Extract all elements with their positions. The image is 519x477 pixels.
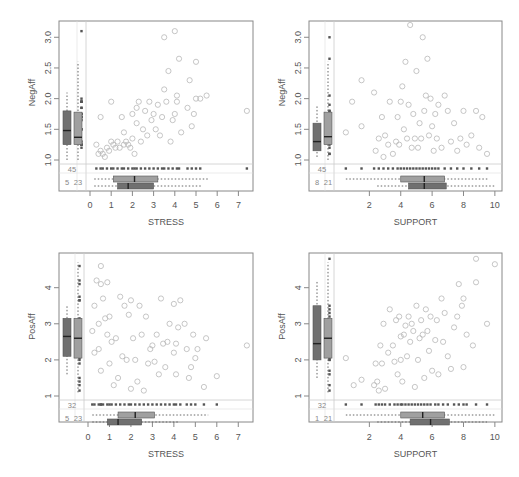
- svg-text:1.0: 1.0: [293, 154, 303, 167]
- svg-text:2: 2: [43, 357, 53, 362]
- svg-text:23: 23: [74, 414, 82, 423]
- svg-text:21: 21: [324, 178, 332, 187]
- svg-text:1: 1: [293, 393, 303, 398]
- svg-text:6: 6: [214, 432, 219, 442]
- svg-text:8: 8: [315, 178, 319, 187]
- marginal-boxplot-x: [92, 412, 208, 418]
- missing-counts: 32121: [315, 401, 332, 424]
- svg-text:4: 4: [398, 200, 403, 210]
- svg-text:2.5: 2.5: [43, 62, 53, 75]
- marginal-boxplot-y: [313, 105, 321, 157]
- svg-text:1.5: 1.5: [43, 123, 53, 136]
- y-axis: 1234: [293, 285, 309, 398]
- y-axis-label: PosAff: [277, 313, 287, 340]
- missing-y-rug: [328, 258, 488, 406]
- svg-text:3.0: 3.0: [293, 31, 303, 44]
- svg-text:8: 8: [461, 200, 466, 210]
- svg-text:1: 1: [315, 414, 319, 423]
- missing-counts: 45821: [315, 165, 332, 188]
- scatter-points: [90, 263, 250, 393]
- missing-counts: 32523: [65, 401, 82, 424]
- svg-text:2: 2: [128, 432, 133, 442]
- svg-text:1.0: 1.0: [43, 154, 53, 167]
- svg-text:6: 6: [215, 200, 220, 210]
- svg-text:3.0: 3.0: [43, 31, 53, 44]
- svg-text:6: 6: [430, 432, 435, 442]
- svg-text:2.5: 2.5: [293, 62, 303, 75]
- scatter-points: [94, 29, 250, 160]
- svg-text:5: 5: [193, 432, 198, 442]
- x-axis-label: SUPPORT: [394, 449, 438, 459]
- plot-negaff-vs-support: 1.01.52.02.53.0246810SUPPORTNegAff45821: [260, 0, 519, 230]
- svg-text:3: 3: [293, 321, 303, 326]
- svg-text:8: 8: [461, 432, 466, 442]
- svg-text:32: 32: [318, 401, 326, 410]
- plot-posaff-vs-support: 1234246810SUPPORTPosAff32121: [260, 230, 519, 477]
- svg-text:1.5: 1.5: [293, 123, 303, 136]
- marginal-boxplot-x: [94, 183, 202, 189]
- svg-text:4: 4: [398, 432, 403, 442]
- scatter-points: [343, 22, 489, 159]
- svg-text:21: 21: [324, 414, 332, 423]
- chart-canvas: 1234246810SUPPORTPosAff32121: [260, 230, 519, 477]
- svg-text:0: 0: [85, 432, 90, 442]
- marginal-boxplot-x: [94, 176, 208, 182]
- missing-counts: 45523: [65, 165, 82, 188]
- svg-text:10: 10: [490, 432, 500, 442]
- plot-frame: [309, 253, 502, 422]
- y-axis: 1.01.52.02.53.0: [43, 31, 59, 166]
- svg-text:32: 32: [68, 401, 76, 410]
- svg-text:1: 1: [107, 432, 112, 442]
- svg-text:45: 45: [318, 165, 326, 174]
- marginal-boxplot-y: [63, 93, 71, 161]
- svg-text:1: 1: [43, 393, 53, 398]
- marginal-boxplot-y: [313, 280, 321, 377]
- plot-negaff-vs-stress: 1.01.52.02.53.001234567STRESSNegAff45523: [0, 0, 260, 230]
- x-axis-label: STRESS: [148, 217, 184, 227]
- marginal-boxplot-x: [346, 412, 495, 418]
- svg-text:2.0: 2.0: [293, 92, 303, 105]
- x-axis: 01234567: [87, 191, 240, 210]
- svg-text:2: 2: [367, 432, 372, 442]
- y-axis: 1.01.52.02.53.0: [293, 31, 309, 166]
- svg-text:23: 23: [74, 178, 82, 187]
- svg-text:2: 2: [130, 200, 135, 210]
- marginal-boxplot-y: [63, 306, 71, 375]
- x-axis-label: SUPPORT: [394, 217, 438, 227]
- svg-text:4: 4: [293, 285, 303, 290]
- svg-text:7: 7: [236, 432, 241, 442]
- marginal-boxplot-x: [377, 183, 495, 189]
- svg-text:10: 10: [490, 200, 500, 210]
- svg-text:3: 3: [150, 432, 155, 442]
- svg-text:5: 5: [65, 178, 69, 187]
- x-axis: 246810: [367, 191, 500, 210]
- svg-text:4: 4: [171, 432, 176, 442]
- y-axis-label: NegAff: [27, 78, 37, 106]
- svg-text:2: 2: [293, 357, 303, 362]
- svg-text:2: 2: [367, 200, 372, 210]
- svg-text:1: 1: [109, 200, 114, 210]
- x-axis-label: STRESS: [148, 449, 184, 459]
- missing-y-rug: [328, 36, 488, 170]
- plot-frame: [309, 21, 502, 191]
- svg-text:7: 7: [236, 200, 241, 210]
- y-axis-label: PosAff: [27, 313, 37, 340]
- marginal-boxplot-x: [346, 176, 489, 182]
- svg-text:3: 3: [43, 321, 53, 326]
- y-axis: 1234: [43, 285, 59, 398]
- chart-canvas: 1.01.52.02.53.0246810SUPPORTNegAff45821: [260, 0, 519, 230]
- svg-text:0: 0: [87, 200, 92, 210]
- svg-text:3: 3: [151, 200, 156, 210]
- svg-text:2.0: 2.0: [43, 92, 53, 105]
- chart-canvas: 123401234567STRESSPosAff32523: [0, 230, 260, 477]
- svg-text:45: 45: [68, 165, 76, 174]
- y-axis-label: NegAff: [277, 78, 287, 106]
- svg-text:4: 4: [43, 285, 53, 290]
- chart-canvas: 1.01.52.02.53.001234567STRESSNegAff45523: [0, 0, 260, 230]
- svg-text:4: 4: [172, 200, 177, 210]
- plot-posaff-vs-stress: 123401234567STRESSPosAff32523: [0, 230, 260, 477]
- svg-text:6: 6: [430, 200, 435, 210]
- svg-text:5: 5: [65, 414, 69, 423]
- scatter-points: [343, 256, 497, 393]
- svg-text:5: 5: [193, 200, 198, 210]
